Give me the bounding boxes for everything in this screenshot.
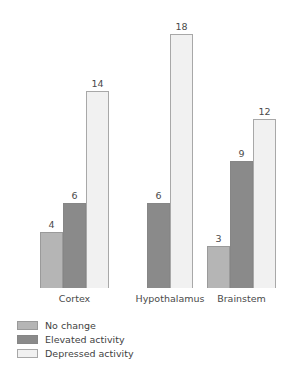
bar-chart: 46146183912 No changeElevated activityDe… <box>0 0 298 368</box>
bar-value-label: 18 <box>175 21 187 32</box>
legend-item-elevated-activity[interactable]: Elevated activity <box>17 333 134 346</box>
bar-value-label: 9 <box>238 148 244 159</box>
legend-item-no-change[interactable]: No change <box>17 319 134 332</box>
bar-slot: 6 <box>147 0 170 288</box>
bar-cortex-depressed-activity[interactable] <box>86 91 109 288</box>
bar-value-label: 12 <box>258 106 270 117</box>
bar-brainstem-elevated-activity[interactable] <box>230 161 253 288</box>
bar-slot: 12 <box>253 0 276 288</box>
bar-value-label: 3 <box>215 233 221 244</box>
bar-value-label: 6 <box>71 190 77 201</box>
bar-hypothalamus-depressed-activity[interactable] <box>170 34 193 288</box>
bar-group-bars: 4614 <box>40 0 109 288</box>
chart-legend: No changeElevated activityDepressed acti… <box>17 319 134 361</box>
bar-slot: 6 <box>63 0 86 288</box>
bar-cortex-no-change[interactable] <box>40 232 63 288</box>
category-label-hypothalamus: Hypothalamus <box>136 293 205 305</box>
bar-cortex-elevated-activity[interactable] <box>63 203 86 288</box>
bar-hypothalamus-elevated-activity[interactable] <box>147 203 170 288</box>
legend-swatch-icon <box>17 335 38 344</box>
bar-slot: 4 <box>40 0 63 288</box>
bar-slot: 14 <box>86 0 109 288</box>
category-label-cortex: Cortex <box>59 293 90 305</box>
legend-label: Depressed activity <box>45 348 134 360</box>
bar-value-label: 6 <box>155 190 161 201</box>
bar-slot: 18 <box>170 0 193 288</box>
bar-value-label: 14 <box>91 78 103 89</box>
legend-label: Elevated activity <box>45 334 125 346</box>
legend-swatch-icon <box>17 321 38 330</box>
bar-brainstem-depressed-activity[interactable] <box>253 119 276 288</box>
plot-area: 46146183912 <box>0 0 298 290</box>
legend-swatch-icon <box>17 349 38 358</box>
bar-group-bars: 3912 <box>207 0 276 288</box>
bar-brainstem-no-change[interactable] <box>207 246 230 288</box>
bar-value-label: 4 <box>48 219 54 230</box>
bar-slot: 3 <box>207 0 230 288</box>
bar-slot: 9 <box>230 0 253 288</box>
bar-group-bars: 618 <box>147 0 193 288</box>
legend-label: No change <box>45 320 96 332</box>
legend-item-depressed-activity[interactable]: Depressed activity <box>17 347 134 360</box>
category-label-brainstem: Brainstem <box>217 293 266 305</box>
